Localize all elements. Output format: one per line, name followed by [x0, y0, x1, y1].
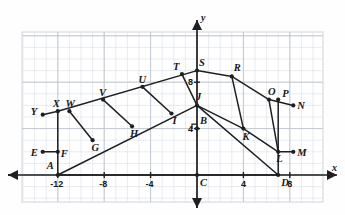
point-label-N: N — [297, 101, 305, 112]
vertex-dot-D — [276, 173, 280, 177]
vertex-dot-M — [291, 150, 295, 154]
point-label-I: I — [172, 116, 176, 127]
point-label-O: O — [268, 87, 276, 98]
y-tick-label-8: 8 — [188, 78, 193, 87]
vertex-dot-J — [195, 103, 199, 107]
point-label-X: X — [53, 99, 60, 110]
point-label-T: T — [173, 62, 179, 73]
x-tick-label-4: 4 — [241, 180, 246, 189]
vertex-dot-Y — [41, 113, 45, 117]
point-label-W: W — [65, 99, 74, 110]
x-tick-label--8: -8 — [99, 180, 107, 189]
vertex-dot-U — [140, 85, 144, 89]
vertex-dot-V — [101, 98, 105, 102]
point-label-H: H — [130, 129, 138, 140]
vertex-dot-A — [56, 173, 60, 177]
point-label-R: R — [234, 63, 241, 74]
x-tick-label-8: 8 — [287, 180, 292, 189]
vertex-dot-T — [180, 72, 184, 76]
vertex-dot-E — [41, 150, 45, 154]
y-axis-name: y — [201, 12, 205, 23]
x-tick-label--12: -12 — [50, 180, 63, 189]
point-label-S: S — [199, 58, 205, 69]
figure-canvas: ABCDEFGHIJKLMNOPRSTUVWXY-12-8-44848xy — [0, 0, 345, 215]
point-label-J: J — [196, 92, 201, 103]
point-label-M: M — [297, 148, 306, 159]
vertex-dot-W — [67, 109, 71, 113]
point-label-K: K — [242, 132, 249, 143]
point-label-Y: Y — [31, 107, 37, 118]
point-label-G: G — [92, 143, 100, 154]
vertex-dot-B — [195, 127, 199, 131]
point-label-F: F — [61, 149, 68, 160]
point-label-L: L — [276, 154, 282, 165]
point-label-P: P — [282, 89, 288, 100]
x-tick-label--4: -4 — [146, 180, 154, 189]
vertex-dot-X — [56, 109, 60, 113]
point-label-V: V — [99, 88, 106, 99]
point-label-A: A — [47, 161, 54, 172]
vertex-dot-S — [195, 69, 199, 73]
point-label-C: C — [200, 178, 207, 189]
point-label-E: E — [31, 148, 38, 159]
vertex-dot-O — [267, 98, 271, 102]
vertex-dot-C — [195, 173, 199, 177]
point-label-B: B — [200, 116, 207, 127]
vertex-dot-F — [56, 150, 60, 154]
point-label-U: U — [138, 75, 146, 86]
y-tick-label-4: 4 — [188, 125, 193, 134]
vertex-dot-N — [291, 103, 295, 107]
x-axis-name: x — [332, 162, 337, 173]
vertex-dot-R — [230, 74, 234, 78]
vertex-dot-P — [276, 98, 280, 102]
